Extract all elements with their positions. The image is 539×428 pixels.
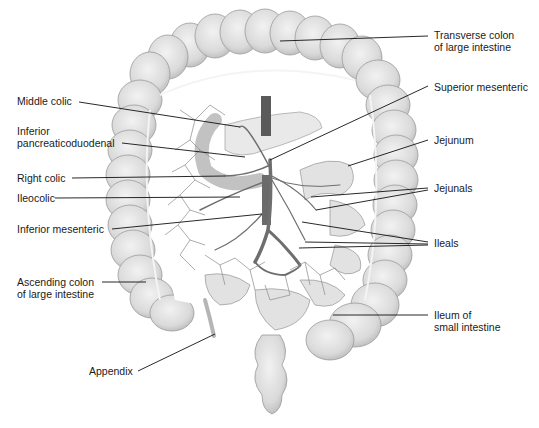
mesentery-space [159, 79, 362, 310]
label-inferior-mesenteric: Inferior mesenteric [17, 223, 104, 235]
aorta [261, 96, 271, 136]
rectum [255, 335, 287, 414]
label-jejunum: Jejunum [434, 134, 474, 146]
label-ileum: Ileum of small intestine [434, 309, 501, 333]
label-ascending-colon: Ascending colon of large intestine [17, 276, 94, 300]
intestinal-arteries-figure: Middle colic Inferior pancreaticoduodena… [0, 0, 539, 428]
label-ileals: Ileals [434, 237, 459, 249]
label-superior-mesenteric: Superior mesenteric [434, 81, 528, 93]
label-middle-colic: Middle colic [17, 95, 72, 107]
label-jejunals: Jejunals [434, 182, 473, 194]
anatomy-illustration [0, 0, 539, 428]
label-transverse-colon: Transverse colon of large intestine [434, 29, 514, 53]
label-inferior-pancreaticoduodenal: Inferior pancreaticoduodenal [17, 125, 115, 149]
label-appendix: Appendix [89, 365, 133, 377]
label-right-colic: Right colic [17, 172, 65, 184]
leader-appendix [138, 334, 215, 371]
label-ileocolic: Ileocolic [17, 192, 55, 204]
